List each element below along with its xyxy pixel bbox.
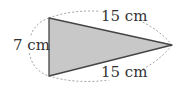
label-top-side: 15 cm <box>101 7 147 25</box>
label-left-side: 7 cm <box>13 36 50 54</box>
triangle-diagram: 15 cm 7 cm 15 cm <box>0 0 183 87</box>
label-bottom-side: 15 cm <box>101 63 147 81</box>
